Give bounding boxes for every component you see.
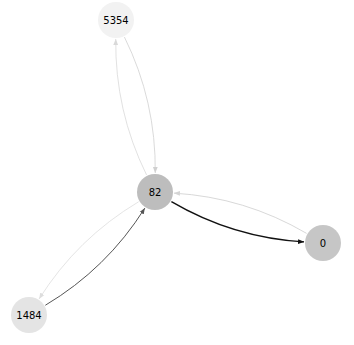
node-0: 0 — [305, 225, 341, 261]
nodes-layer: 53548201484 — [11, 2, 341, 333]
node-5354: 5354 — [98, 2, 134, 38]
edge-5354-to-82 — [124, 37, 155, 173]
edge-1484-to-82 — [45, 208, 145, 305]
graph-canvas: 53548201484 — [0, 0, 354, 345]
edge-82-to-5354 — [116, 39, 147, 175]
edges-layer — [39, 37, 306, 305]
node-82: 82 — [137, 174, 173, 210]
edge-82-to-1484 — [39, 202, 139, 299]
node-label: 1484 — [16, 310, 41, 321]
node-label: 82 — [149, 187, 162, 198]
node-label: 5354 — [103, 15, 128, 26]
node-label: 0 — [320, 238, 326, 249]
node-1484: 1484 — [11, 297, 47, 333]
